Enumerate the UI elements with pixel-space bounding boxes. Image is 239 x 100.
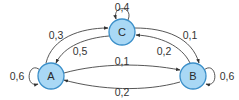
label-b-to-a: 0,2 — [115, 86, 130, 98]
node-a-label: A — [47, 70, 55, 82]
label-a-to-c: 0,3 — [49, 29, 64, 41]
label-c-to-a: 0,5 — [73, 45, 88, 57]
node-a: A — [38, 63, 64, 89]
label-b-to-b: 0,6 — [220, 70, 235, 82]
node-b-label: B — [189, 70, 196, 82]
label-a-to-a: 0,6 — [10, 70, 25, 82]
label-c-to-b: 0,1 — [183, 29, 198, 41]
state-diagram: A B C 0,6 0,6 0,4 0,3 0,5 0,1 0,2 0,1 0,… — [0, 0, 239, 100]
label-c-to-c: 0,4 — [115, 1, 130, 13]
node-c-label: C — [118, 26, 126, 38]
label-b-to-c: 0,2 — [157, 45, 172, 57]
node-b: B — [180, 63, 206, 89]
label-a-to-b: 0,1 — [115, 55, 130, 67]
node-c: C — [109, 19, 135, 45]
